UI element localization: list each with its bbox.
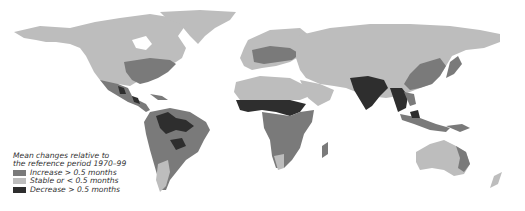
legend-swatch-stable xyxy=(13,178,26,184)
australia xyxy=(416,140,470,176)
map-legend: Mean changes relative to the reference p… xyxy=(13,152,126,194)
legend-label: Decrease > 0.5 months xyxy=(30,186,120,194)
indonesia xyxy=(400,110,470,132)
south-america xyxy=(144,108,210,192)
legend-item-decrease: Decrease > 0.5 months xyxy=(13,186,126,194)
legend-swatch-decrease xyxy=(13,187,26,193)
new-zealand xyxy=(490,172,502,188)
legend-swatch-increase xyxy=(13,170,26,176)
